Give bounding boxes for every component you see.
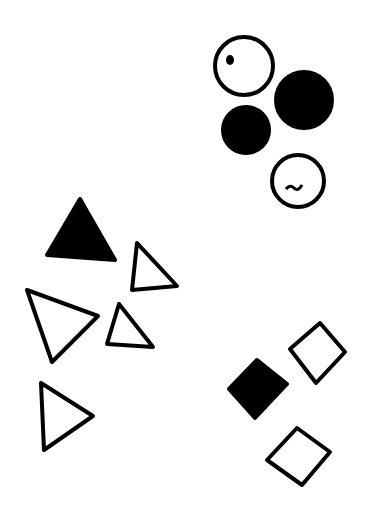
- shapes-diagram: [0, 0, 380, 513]
- outline-circle-shape: [272, 155, 324, 207]
- dot-mark: [226, 55, 234, 65]
- outline-circle-shape: [215, 37, 273, 95]
- filled-circle-shape: [223, 107, 269, 153]
- filled-circle-shape: [276, 72, 332, 128]
